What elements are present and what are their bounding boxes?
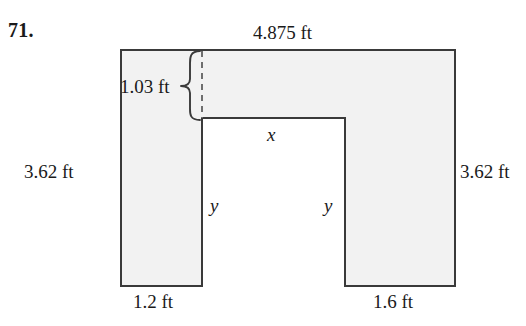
variable-label-y-right: y [324, 196, 332, 215]
u-shape-figure [0, 0, 526, 326]
dimension-left-base: 1.2 ft [133, 292, 173, 311]
dimension-notch-height: 1.03 ft [120, 77, 170, 96]
dimension-left-height: 3.62 ft [24, 162, 74, 181]
dimension-right-base: 1.6 ft [373, 292, 413, 311]
figure-page: 71. 4.875 ft 1.03 ft 3.62 ft 3.62 ft 1.2… [0, 0, 526, 326]
variable-label-y-left: y [210, 196, 218, 215]
dimension-right-height: 3.62 ft [460, 162, 510, 181]
dimension-top-width: 4.875 ft [253, 23, 312, 42]
variable-label-x: x [267, 125, 275, 144]
u-shape-outline [121, 50, 455, 286]
